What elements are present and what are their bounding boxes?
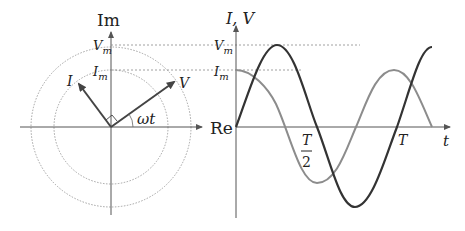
ac-phasor-figure: Im Re Vm Im I V ωt I, V t Vm Im T 2 <box>0 0 465 231</box>
half-period-numerator: T <box>302 132 313 148</box>
waveform-graph: I, V t Vm Im T 2 T <box>213 9 450 218</box>
angle-label: ωt <box>137 110 156 128</box>
period-label: T <box>398 132 409 148</box>
time-axis-label: t <box>443 132 450 150</box>
voltage-waveform <box>236 45 432 207</box>
half-period-denominator: 2 <box>302 154 311 170</box>
real-axis-label: Re <box>210 118 233 138</box>
graph-vm-label: Vm <box>214 38 233 56</box>
imag-axis-label: Im <box>97 10 120 30</box>
graph-im-label: Im <box>213 64 229 82</box>
vm-label: Vm <box>93 38 112 56</box>
current-phasor <box>79 84 111 127</box>
iv-axis-label: I, V <box>225 9 255 28</box>
angle-arc <box>129 114 133 127</box>
im-label: Im <box>92 64 108 82</box>
voltage-phasor-label: V <box>179 75 191 91</box>
phasor-diagram: Im Re Vm Im I V ωt <box>20 10 360 215</box>
current-phasor-label: I <box>66 73 73 89</box>
